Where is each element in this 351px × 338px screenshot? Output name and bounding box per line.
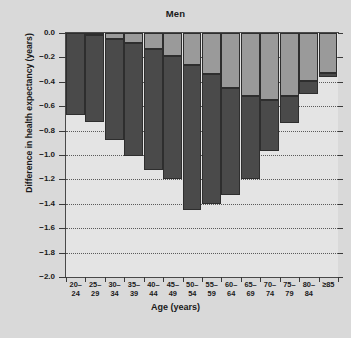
bar-group[interactable] — [260, 33, 279, 277]
bar-segment-lower[interactable] — [260, 100, 279, 151]
y-tick-mark — [59, 228, 66, 229]
bar-segment-lower[interactable] — [280, 96, 299, 123]
bar-segment-lower[interactable] — [221, 88, 240, 195]
bar-group[interactable] — [280, 33, 299, 277]
y-tick-label: −1.4 — [15, 199, 55, 208]
bar-segment-upper[interactable] — [221, 33, 240, 88]
bar-group[interactable] — [105, 33, 124, 277]
bar-segment-upper[interactable] — [319, 33, 338, 73]
y-tick-mark — [59, 33, 66, 34]
bar-segment-lower[interactable] — [66, 33, 85, 115]
bar-segment-lower[interactable] — [105, 39, 124, 140]
y-tick-label: −0.6 — [15, 101, 55, 110]
bar-segment-upper[interactable] — [299, 33, 318, 81]
bar-group[interactable] — [299, 33, 318, 277]
y-tick-mark — [59, 82, 66, 83]
y-tick-label: −1.0 — [15, 150, 55, 159]
y-tick-label: −1.2 — [15, 174, 55, 183]
y-tick-mark-right — [338, 204, 343, 205]
chart-figure: Men 0.0−0.2−0.4−0.6−0.8−1.0−1.2−1.4−1.6−… — [0, 0, 351, 338]
bar-segment-upper[interactable] — [144, 33, 163, 49]
y-tick-label: −1.8 — [15, 248, 55, 257]
y-tick-mark — [59, 179, 66, 180]
y-tick-mark-right — [338, 131, 343, 132]
bar-segment-upper[interactable] — [163, 33, 182, 56]
bar-group[interactable] — [183, 33, 202, 277]
y-tick-mark-right — [338, 57, 343, 58]
bar-group[interactable] — [221, 33, 240, 277]
bar-segment-lower[interactable] — [183, 65, 202, 210]
x-axis-title: Age (years) — [0, 302, 351, 312]
bar-group[interactable] — [66, 33, 85, 277]
bar-group[interactable] — [241, 33, 260, 277]
y-tick-mark — [59, 106, 66, 107]
x-tick-label-second-line: 84 — [295, 289, 322, 299]
axis-top-spine — [65, 32, 339, 33]
chart-title: Men — [0, 8, 351, 19]
bar-segment-upper[interactable] — [241, 33, 260, 96]
bar-group[interactable] — [163, 33, 182, 277]
y-axis-title: Difference in health expectancy (years) — [24, 0, 34, 228]
y-tick-label: −0.4 — [15, 77, 55, 86]
y-tick-mark — [59, 155, 66, 156]
y-tick-mark — [59, 253, 66, 254]
bar-segment-upper[interactable] — [280, 33, 299, 96]
bar-segment-upper[interactable] — [124, 33, 143, 43]
y-tick-mark-right — [338, 253, 343, 254]
bar-group[interactable] — [319, 33, 338, 277]
y-tick-label: −2.0 — [15, 272, 55, 281]
bar-segment-lower[interactable] — [85, 35, 104, 122]
bar-segment-lower[interactable] — [319, 73, 338, 77]
y-tick-mark — [59, 131, 66, 132]
y-tick-label: −0.2 — [15, 52, 55, 61]
y-tick-mark-right — [338, 228, 343, 229]
y-tick-mark-right — [338, 106, 343, 107]
bar-group[interactable] — [124, 33, 143, 277]
y-tick-mark — [59, 57, 66, 58]
bar-segment-lower[interactable] — [124, 43, 143, 156]
y-tick-label: 0.0 — [15, 28, 55, 37]
y-tick-mark-right — [338, 33, 343, 34]
y-tick-mark-right — [338, 155, 343, 156]
y-tick-mark-right — [338, 179, 343, 180]
y-tick-mark-right — [338, 82, 343, 83]
bar-segment-upper[interactable] — [202, 33, 221, 74]
bar-segment-lower[interactable] — [299, 81, 318, 94]
bar-segment-lower[interactable] — [241, 96, 260, 179]
bar-segment-lower[interactable] — [202, 74, 221, 203]
bar-segment-lower[interactable] — [163, 56, 182, 179]
bar-group[interactable] — [85, 33, 104, 277]
y-tick-label: −0.8 — [15, 126, 55, 135]
bar-segment-upper[interactable] — [260, 33, 279, 100]
bar-segment-lower[interactable] — [144, 49, 163, 170]
x-tick-label: ≥85 — [315, 280, 342, 290]
y-tick-mark — [59, 277, 66, 278]
y-tick-label: −1.6 — [15, 223, 55, 232]
bar-group[interactable] — [144, 33, 163, 277]
y-tick-mark — [59, 204, 66, 205]
plot-area — [66, 33, 338, 277]
bar-segment-upper[interactable] — [183, 33, 202, 65]
bar-group[interactable] — [202, 33, 221, 277]
